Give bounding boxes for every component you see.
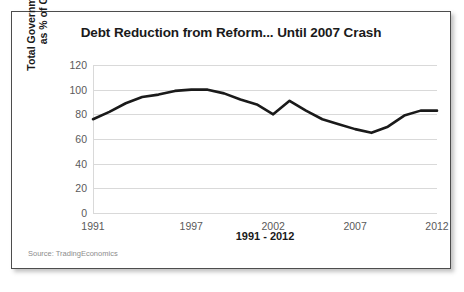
y-axis-tick-label: 100 — [69, 84, 87, 96]
plot-area: 120100806040200 19911997200220072012 — [93, 65, 437, 213]
y-axis-label-text: Total Government Debt as % of GDP — [25, 0, 49, 71]
chart-figure-frame: Debt Reduction from Reform... Until 2007… — [11, 11, 451, 269]
line-series — [93, 65, 437, 213]
x-axis-label: 1991 - 2012 — [93, 230, 437, 242]
y-axis-tick-label: 80 — [75, 108, 87, 120]
y-axis-tick-label: 0 — [81, 207, 87, 219]
y-axis-tick-label: 40 — [75, 158, 87, 170]
source-note: Source: TradingEconomics — [28, 249, 118, 258]
y-axis-tick-label: 20 — [75, 182, 87, 194]
y-axis-label: Total Government Debt as % of GDP — [26, 0, 48, 87]
gridline — [93, 213, 437, 214]
y-axis-tick-label: 60 — [75, 133, 87, 145]
y-axis-label-line2: as % of GDP — [37, 0, 49, 44]
y-axis-tick-label: 120 — [69, 59, 87, 71]
debt-line-path — [93, 90, 437, 133]
chart-title: Debt Reduction from Reform... Until 2007… — [12, 25, 450, 40]
y-axis-label-line1: Total Government Debt — [25, 0, 37, 71]
